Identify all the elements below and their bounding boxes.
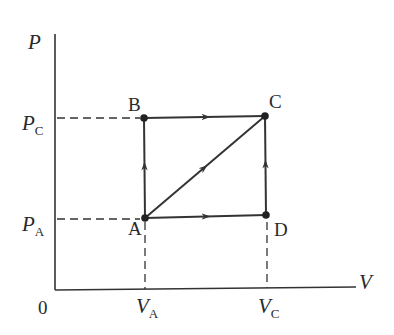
vc-tick-label: VC — [258, 296, 280, 317]
point-a-label: A — [128, 219, 142, 238]
path-bc — [144, 116, 265, 118]
pv-diagram — [0, 0, 394, 335]
path-dc — [265, 116, 266, 215]
point-b — [140, 114, 148, 122]
x-axis — [55, 287, 356, 290]
point-b-label: B — [128, 95, 141, 114]
path-ab — [144, 118, 145, 218]
x-axis-label: V — [359, 272, 372, 293]
point-d-label: D — [274, 220, 288, 239]
y-axis-label: P — [28, 32, 41, 53]
point-c — [261, 112, 269, 120]
path-ad — [145, 215, 266, 218]
point-d — [262, 211, 270, 219]
pa-tick-label: PA — [22, 214, 44, 235]
point-c-label: C — [269, 92, 282, 111]
point-a — [141, 214, 149, 222]
va-tick-label: VA — [136, 296, 158, 317]
pc-tick-label: PC — [22, 113, 44, 134]
path-ac — [145, 116, 265, 218]
origin-label: 0 — [38, 298, 48, 317]
